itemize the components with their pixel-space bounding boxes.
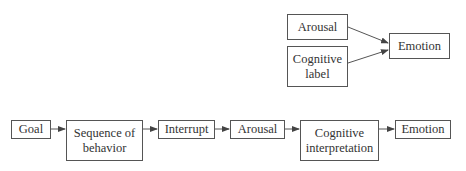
- node-label: Arousal: [298, 20, 338, 35]
- node-top-emotion: Emotion: [389, 33, 450, 59]
- node-emotion: Emotion: [395, 120, 451, 139]
- node-label: Emotion: [401, 122, 444, 137]
- node-label: Cognitive label: [293, 52, 342, 82]
- node-label: Goal: [19, 122, 43, 137]
- node-cognitive-interpretation: Cognitive interpretation: [300, 120, 379, 161]
- node-label: Arousal: [238, 122, 278, 137]
- node-label: Emotion: [398, 39, 441, 54]
- node-interrupt: Interrupt: [158, 120, 215, 139]
- node-top-cognitive-label: Cognitive label: [287, 46, 348, 87]
- arrow-cognitive-label-to-emotion: [348, 50, 388, 63]
- node-label: Interrupt: [165, 122, 209, 137]
- node-label: Sequence of behavior: [71, 126, 138, 156]
- node-goal: Goal: [11, 120, 51, 139]
- node-arousal: Arousal: [230, 120, 285, 139]
- node-top-arousal: Arousal: [287, 14, 348, 40]
- node-sequence-of-behavior: Sequence of behavior: [66, 120, 143, 161]
- node-label: Cognitive interpretation: [305, 126, 374, 156]
- arrow-arousal-to-emotion: [348, 27, 388, 43]
